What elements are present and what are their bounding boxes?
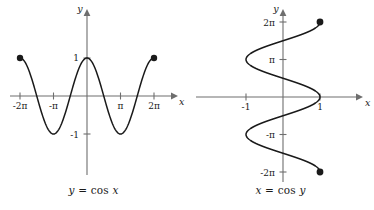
y-axis-label: y — [76, 3, 83, 14]
endpoint-dot-top — [317, 19, 324, 26]
caption-lhs: y — [68, 184, 74, 196]
x-tick-label-pi: π — [118, 101, 124, 111]
x-tick-label-1: 1 — [317, 102, 323, 112]
cosine-figure-pair: y x -2π -π π 2π 1 -1 y = cos — [0, 0, 374, 210]
caption-lhs: x — [255, 184, 261, 196]
y-tick-label-neg2pi: -2π — [260, 168, 275, 178]
y-tick-label-negpi: -π — [266, 130, 275, 140]
y-tick-label-1: 1 — [73, 53, 79, 63]
plot-y-equals-cos-x: y x -2π -π π 2π 1 -1 — [0, 0, 187, 186]
endpoint-dot-bottom — [317, 169, 324, 176]
y-axis-label: y — [272, 3, 279, 14]
x-axis-arrowhead — [356, 94, 363, 101]
x-axis-label: x — [179, 96, 185, 107]
y-axis-arrowhead — [84, 9, 91, 16]
caption-function: cos — [278, 184, 296, 196]
x-axis-arrowhead — [171, 93, 178, 100]
x-tick-label-negpi: -π — [49, 101, 58, 111]
endpoint-dot-right — [151, 55, 157, 61]
plot-x-equals-cos-y: y x -1 1 2π π -π -2π — [187, 0, 374, 186]
x-axis-label: x — [365, 97, 371, 108]
caption-argument: y — [299, 184, 305, 196]
caption-x-equals-cos-y: x = cos y — [187, 184, 374, 196]
endpoint-dot-left — [17, 55, 23, 61]
caption-operator: = — [78, 184, 87, 196]
x-tick-label-2pi: 2π — [148, 101, 160, 111]
x-tick-label-neg2pi: -2π — [13, 101, 28, 111]
x-tick-label-neg1: -1 — [242, 102, 251, 112]
y-tick-label-2pi: 2π — [263, 18, 275, 28]
panel-x-equals-cos-y: y x -1 1 2π π -π -2π x — [187, 0, 374, 210]
caption-operator: = — [265, 184, 274, 196]
caption-function: cos — [91, 184, 109, 196]
caption-argument: x — [112, 184, 118, 196]
y-tick-label-neg1: -1 — [70, 130, 79, 140]
y-tick-label-pi: π — [269, 55, 275, 65]
caption-y-equals-cos-x: y = cos x — [0, 184, 187, 196]
panel-y-equals-cos-x: y x -2π -π π 2π 1 -1 y = cos — [0, 0, 187, 210]
y-axis-arrowhead — [280, 9, 287, 16]
